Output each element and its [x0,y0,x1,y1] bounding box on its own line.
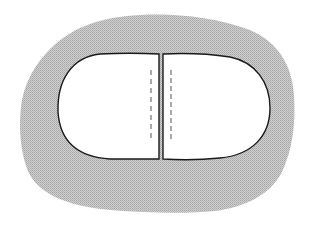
diagram-svg [0,0,309,225]
diagram-canvas [0,0,309,225]
right-half [163,54,270,160]
left-half [58,53,159,159]
